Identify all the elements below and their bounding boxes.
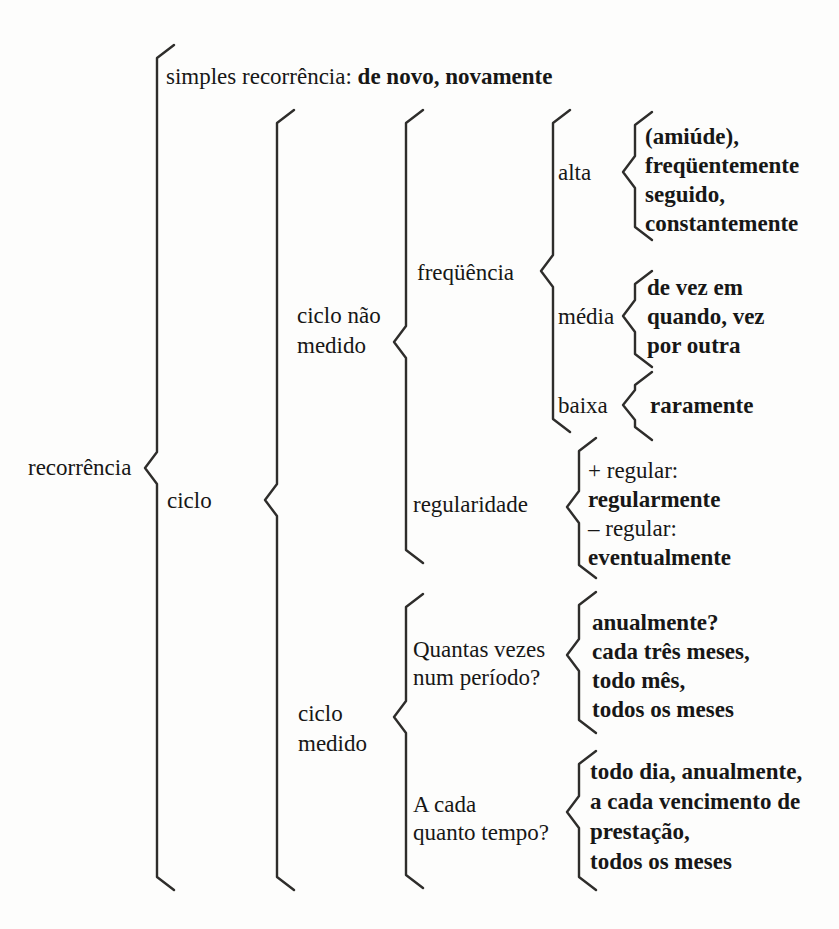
label-ciclo: ciclo — [167, 486, 212, 515]
label-quantas-vezes: Quantas vezes num período? — [413, 636, 545, 692]
list-item: prestação, — [590, 817, 802, 847]
label-ciclo-nao-medido-line1: ciclo não — [297, 301, 381, 331]
list-item: cada três meses, — [592, 637, 750, 666]
list-item: raramente — [650, 391, 753, 420]
label-ciclo-medido-line1: ciclo — [298, 699, 367, 729]
list-item: todo dia, anualmente, — [590, 757, 802, 787]
list-regularidade: + regular: regularmente – regular: event… — [588, 456, 731, 572]
label-regularidade: regularidade — [413, 490, 528, 519]
label-baixa: baixa — [558, 391, 608, 420]
label-a-cada-line2: quanto tempo? — [413, 819, 549, 847]
list-item: (amiúde), — [645, 122, 799, 151]
label-quantas-vezes-line1: Quantas vezes — [413, 636, 545, 664]
list-item: por outra — [647, 331, 765, 360]
simples-recorrencia-examples: de novo, novamente — [358, 64, 553, 89]
list-item: seguido, — [645, 180, 799, 209]
brace-frequencia — [535, 108, 573, 434]
label-ciclo-medido-line2: medido — [298, 729, 367, 759]
label-a-cada-line1: A cada — [413, 791, 549, 819]
list-a-cada: todo dia, anualmente, a cada vencimento … — [590, 757, 802, 877]
list-item: de vez em — [647, 273, 765, 302]
label-ciclo-medido: ciclo medido — [298, 699, 367, 759]
list-item: constantemente — [645, 209, 799, 238]
diagram-page: recorrência simples recorrência: de novo… — [0, 0, 839, 929]
label-alta: alta — [558, 158, 591, 187]
list-item: eventualmente — [588, 543, 731, 572]
label-ciclo-nao-medido-line2: medido — [297, 331, 381, 361]
list-alta: (amiúde), freqüentemente seguido, consta… — [645, 122, 799, 238]
list-item: a cada vencimento de — [590, 787, 802, 817]
list-item: + regular: — [588, 456, 731, 485]
label-media: média — [558, 302, 614, 331]
list-item: freqüentemente — [645, 151, 799, 180]
list-baixa: raramente — [650, 391, 753, 420]
list-item: todos os meses — [592, 695, 750, 724]
list-quantas-vezes: anualmente? cada três meses, todo mês, t… — [592, 608, 750, 724]
list-item: todo mês, — [592, 666, 750, 695]
list-item: – regular: — [588, 514, 731, 543]
label-quantas-vezes-line2: num período? — [413, 664, 545, 692]
label-frequencia: freqüência — [417, 258, 514, 287]
label-ciclo-nao-medido: ciclo não medido — [297, 301, 381, 361]
list-item: anualmente? — [592, 608, 750, 637]
list-media: de vez em quando, vez por outra — [647, 273, 765, 360]
simples-recorrencia-prefix: simples recorrência: — [166, 64, 358, 89]
list-item: regularmente — [588, 485, 731, 514]
line-simples-recorrencia: simples recorrência: de novo, novamente — [166, 62, 552, 91]
label-recorrencia: recorrência — [28, 453, 131, 482]
list-item: todos os meses — [590, 847, 802, 877]
brace-ciclo — [259, 108, 297, 892]
label-a-cada: A cada quanto tempo? — [413, 791, 549, 847]
brace-recorrencia — [139, 43, 177, 892]
list-item: quando, vez — [647, 302, 765, 331]
